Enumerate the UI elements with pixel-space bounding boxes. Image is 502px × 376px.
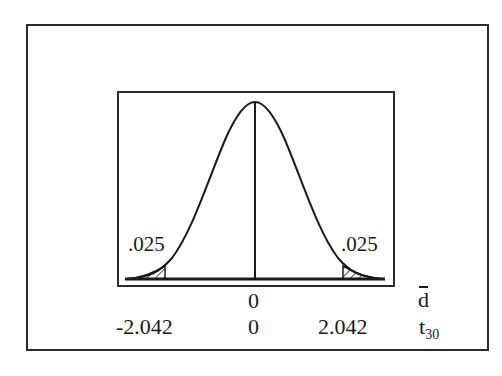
- left-tail-shading: [127, 266, 165, 279]
- right-tail-area-label: .025: [341, 233, 378, 255]
- dbar-axis-label: d: [418, 289, 429, 311]
- dbar-center-tick: 0: [248, 290, 259, 312]
- t-axis-label: t30: [419, 316, 439, 341]
- left-tail-area-label: .025: [128, 233, 165, 255]
- t-left-critical-tick: -2.042: [116, 316, 173, 338]
- dbar-symbol: d: [418, 289, 429, 311]
- t-center-tick: 0: [248, 316, 259, 338]
- t-subscript: 30: [425, 327, 439, 342]
- t-right-critical-tick: 2.042: [318, 316, 368, 338]
